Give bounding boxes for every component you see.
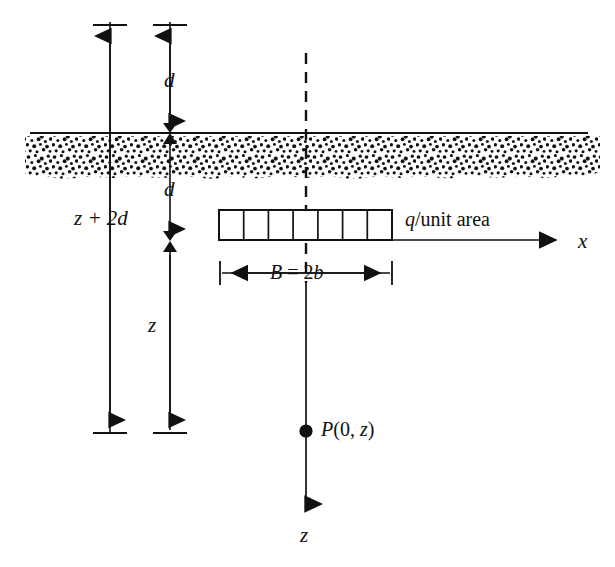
label-depth-below-footing: z <box>148 313 156 338</box>
label-width-value: 2b <box>304 261 324 283</box>
label-point-symbol: P <box>321 418 333 440</box>
strip-footing <box>219 210 392 240</box>
label-width-B-equals-2b: B = 2b <box>270 261 324 284</box>
label-load-text: /unit area <box>415 208 490 230</box>
point-P-marker <box>299 424 312 437</box>
label-depth-top: d <box>164 68 175 93</box>
label-point-coords: (0, z) <box>333 418 374 440</box>
label-depth-bottom: d <box>164 177 175 202</box>
label-axis-z: z <box>300 523 308 548</box>
label-load-symbol: q <box>405 208 415 230</box>
label-point-P: P(0, z) <box>321 418 374 441</box>
label-axis-x: x <box>578 229 587 254</box>
label-load-q-unit-area: q/unit area <box>405 208 490 231</box>
label-width-symbol: B <box>270 261 282 283</box>
label-total-depth: z + 2d <box>74 206 128 231</box>
label-width-equals: = <box>287 261 298 283</box>
